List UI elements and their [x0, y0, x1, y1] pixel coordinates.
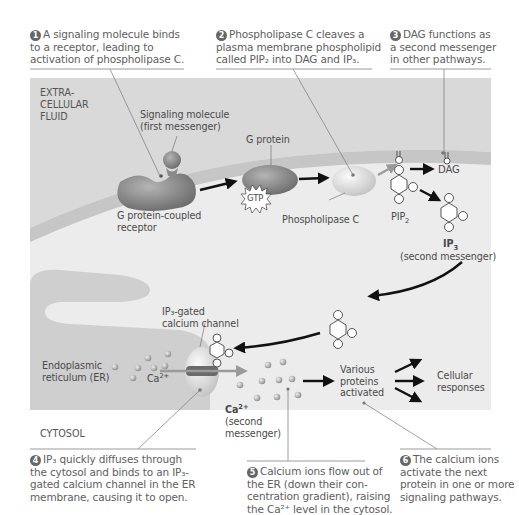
pip2-label: PIP2 [391, 211, 409, 223]
signaling-molecule-label: Signaling molecule (first messenger) [140, 109, 229, 132]
ip3-label: IP3 [443, 238, 458, 250]
step-3-callout: 3DAG functions as a second messenger in … [390, 28, 515, 66]
gtp-label: GTP [247, 193, 263, 205]
step-5-callout: 5Calcium ions flow out of the ER (down t… [247, 465, 412, 515]
step-number-badge: 1 [30, 30, 41, 41]
step-6-callout: 6The calcium ions activate the next prot… [400, 453, 519, 503]
cytosol-label: CYTOSOL [40, 428, 85, 440]
ca-er-label: Ca2+ [147, 373, 169, 385]
step-number-badge: 6 [400, 455, 411, 466]
ip3-second-messenger-label: (second messenger) [400, 251, 496, 263]
signaling-molecule [163, 151, 181, 169]
er-label: Endoplasmic reticulum (ER) [42, 360, 109, 383]
g-protein-label: G protein [246, 134, 290, 146]
step-1-callout: 1A signaling molecule binds to a recepto… [30, 28, 220, 66]
phospholipase-c [332, 166, 376, 196]
phospholipase-c-label: Phospholipase C [282, 214, 359, 226]
extracellular-fluid-label: EXTRA- CELLULAR FLUID [40, 87, 89, 123]
gpcr-label: G protein-coupled receptor [117, 210, 201, 233]
step-number-badge: 2 [216, 30, 227, 41]
ip3-gated-channel-label: IP₃-gated calcium channel [162, 306, 239, 329]
step-number-badge: 5 [247, 467, 258, 478]
step-2-callout: 2Phospholipase C cleaves a plasma membra… [216, 28, 391, 66]
cellular-responses-label: Cellular responses [437, 370, 485, 393]
step-number-badge: 3 [390, 30, 401, 41]
dag-label: DAG [438, 164, 460, 176]
various-proteins-label: Various proteins activated [340, 364, 384, 399]
step-4-callout: 4IP₃ quickly diffuses through the cytoso… [30, 453, 245, 503]
step-number-badge: 4 [30, 455, 41, 466]
ca-cytosol-label: Ca2+ [225, 404, 248, 416]
ca-second-messenger-label: (second messenger) [225, 416, 281, 439]
